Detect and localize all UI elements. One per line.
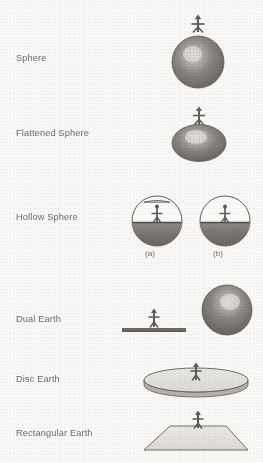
caption-hollow-sphere-b: (b) [203,249,233,258]
row-label-flattened-sphere: Flattened Sphere [16,128,89,138]
row-label-disc-earth: Disc Earth [16,374,60,384]
figure-hollow-sphere-a [128,192,186,250]
dual-earth-sphere [202,285,252,335]
row-label-sphere: Sphere [16,53,47,63]
figure-rectangular-earth [140,410,252,458]
row-label-rectangular-earth: Rectangular Earth [16,428,93,438]
flat-earth-bar [122,328,186,331]
figure-dual-earth [120,283,256,347]
figure-hollow-sphere-b [196,192,254,250]
figure-flattened-sphere [163,104,235,166]
row-label-hollow-sphere: Hollow Sphere [16,212,78,222]
row-label-dual-earth: Dual Earth [16,314,61,324]
figure-disc-earth [140,360,252,402]
stick-figure-on-flat-earth [149,309,160,328]
figure-sheet: Sphere [0,0,263,463]
caption-hollow-sphere-a: (a) [135,249,165,258]
figure-sphere [160,10,236,90]
stick-figure-on-flattened-sphere [193,107,205,125]
stick-figure-on-sphere [192,15,205,33]
